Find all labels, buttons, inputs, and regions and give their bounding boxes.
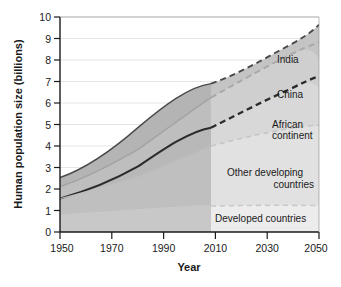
y-tick-label: 8 bbox=[45, 54, 51, 66]
y-tick-label: 3 bbox=[45, 162, 51, 174]
y-tick-label: 10 bbox=[39, 11, 51, 23]
x-tick-label: 2050 bbox=[304, 242, 328, 254]
y-tick-label: 6 bbox=[45, 97, 51, 109]
series-label-developed: Developed countries bbox=[215, 213, 306, 224]
series-label-african-line2: continent bbox=[272, 130, 313, 141]
y-tick-label: 2 bbox=[45, 183, 51, 195]
series-label-other-developing-line2: countries bbox=[273, 179, 314, 190]
y-axis-title: Human population size (billions) bbox=[12, 39, 24, 209]
series-label-china: China bbox=[277, 89, 304, 100]
figure-container: 10 9 8 7 6 5 4 3 2 1 0 1950 1970 1990 20… bbox=[0, 0, 341, 287]
x-tick-label: 1970 bbox=[100, 242, 124, 254]
y-tick-label: 7 bbox=[45, 76, 51, 88]
series-label-african-line1: African bbox=[272, 119, 303, 130]
population-projection-chart: 10 9 8 7 6 5 4 3 2 1 0 1950 1970 1990 20… bbox=[0, 0, 341, 287]
series-label-other-developing-line1: Other developing bbox=[227, 167, 303, 178]
y-tick-label: 0 bbox=[45, 226, 51, 238]
y-tick-label: 5 bbox=[45, 119, 51, 131]
y-tick-label: 9 bbox=[45, 33, 51, 45]
series-label-india: India bbox=[277, 54, 299, 65]
x-tick-label: 2030 bbox=[256, 242, 280, 254]
x-axis-title: Year bbox=[177, 261, 201, 273]
x-tick-label: 2010 bbox=[204, 242, 228, 254]
y-tick-label: 1 bbox=[45, 205, 51, 217]
x-tick-label: 1990 bbox=[152, 242, 176, 254]
x-tick-label: 1950 bbox=[50, 242, 74, 254]
y-tick-label: 4 bbox=[45, 140, 51, 152]
